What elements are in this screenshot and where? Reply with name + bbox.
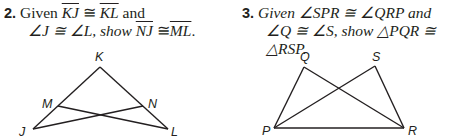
label-l: L (171, 125, 178, 138)
label-k: K (95, 50, 104, 64)
label-s: S (372, 50, 381, 64)
label-n: N (148, 97, 158, 111)
figure-problem-2: K M N J L (18, 50, 178, 138)
figure-problem-3: Q S P R (262, 50, 417, 138)
label-j: J (18, 125, 26, 138)
label-q: Q (300, 50, 310, 64)
figures: K M N J L Q S P R (0, 0, 460, 138)
segment-kl-line (100, 67, 168, 129)
label-m: M (42, 97, 53, 111)
label-p: P (262, 124, 271, 138)
label-r: R (408, 124, 417, 138)
